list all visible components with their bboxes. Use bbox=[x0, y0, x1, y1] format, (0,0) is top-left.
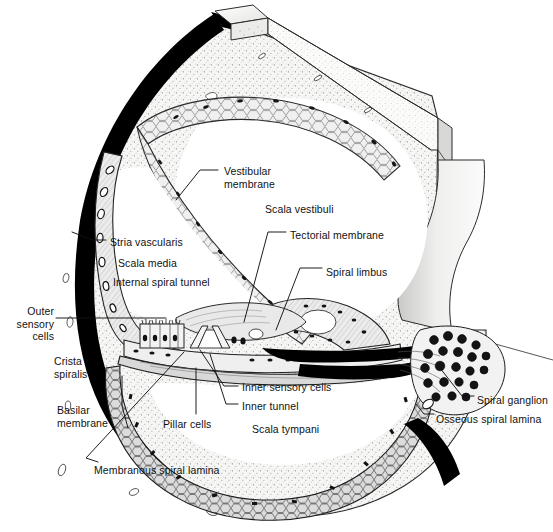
label-membranous-spiral-lamina: Membranous spiral lamina bbox=[94, 464, 220, 477]
label-osseous-spiral-lamina: Osseous spiral lamina bbox=[436, 413, 541, 426]
label-inner-tunnel: Inner tunnel bbox=[242, 400, 299, 413]
label-spiral-ganglion: Spiral ganglion bbox=[477, 394, 548, 407]
label-stria-vascularis: Stria vascularis bbox=[110, 236, 183, 249]
label-tectorial-membrane: Tectorial membrane bbox=[290, 229, 384, 242]
label-scala-tympani: Scala tympani bbox=[252, 423, 319, 436]
label-outer-sensory-cells: Outer sensory cells bbox=[0, 305, 54, 343]
label-basilar-membrane: Basilar membrane bbox=[57, 404, 108, 429]
label-spiral-limbus: Spiral limbus bbox=[326, 266, 387, 279]
label-crista-spiralis: Crista spiralis bbox=[54, 355, 87, 380]
label-pillar-cells: Pillar cells bbox=[163, 418, 211, 431]
label-scala-vestibuli: Scala vestibuli bbox=[265, 203, 334, 216]
cochlea-cross-section-illustration bbox=[0, 0, 553, 532]
label-internal-spiral-tunnel: Internal spiral tunnel bbox=[113, 276, 210, 289]
label-scala-media: Scala media bbox=[118, 257, 177, 270]
cochlea-diagram-figure: Vestibular membrane Scala vestibuli Tect… bbox=[0, 0, 553, 532]
internal-spiral-tunnel bbox=[249, 329, 263, 339]
label-inner-sensory-cells: Inner sensory cells bbox=[242, 381, 331, 394]
label-vestibular-membrane: Vestibular membrane bbox=[224, 165, 275, 190]
